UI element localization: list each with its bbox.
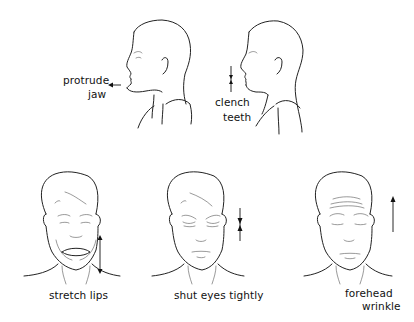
label-protrude: protrude bbox=[63, 74, 109, 86]
label-jaw: jaw bbox=[88, 88, 106, 100]
arrow-up-icon bbox=[391, 196, 396, 232]
facial-movements-figure bbox=[0, 0, 414, 322]
frontal-face-stretch-lips bbox=[24, 172, 120, 284]
label-clench: clench bbox=[215, 96, 250, 108]
frontal-face-forehead-wrinkle bbox=[304, 172, 392, 284]
label-shut-eyes-tightly: shut eyes tightly bbox=[174, 289, 263, 301]
label-teeth: teeth bbox=[223, 111, 251, 123]
frontal-face-shut-eyes-tightly bbox=[152, 172, 244, 284]
arrow-double-vertical-icon bbox=[98, 235, 103, 274]
arrow-converging-vertical-icon bbox=[238, 208, 243, 241]
label-forehead: forehead bbox=[345, 287, 393, 299]
label-wrinkle: wrinkle bbox=[362, 300, 401, 312]
profile-head-protrude-jaw bbox=[127, 20, 192, 128]
arrow-left-icon bbox=[108, 83, 121, 88]
arrow-converging-vertical-icon bbox=[229, 66, 233, 92]
label-stretch-lips: stretch lips bbox=[49, 289, 108, 301]
